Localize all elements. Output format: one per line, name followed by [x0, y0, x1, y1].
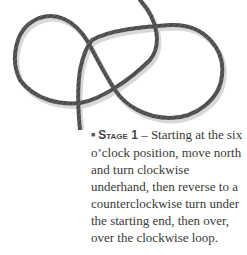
rope-knot-icon — [0, 0, 247, 130]
rope-illustration — [0, 0, 247, 130]
caption-text: Starting at the six o’clock position, mo… — [91, 127, 242, 245]
stage-label: Stage 1 — [98, 128, 138, 142]
caption: ■Stage 1 – Starting at the six o’clock p… — [91, 126, 247, 246]
bullet-icon: ■ — [91, 131, 95, 139]
caption-paragraph: ■Stage 1 – Starting at the six o’clock p… — [91, 126, 247, 246]
dash: – — [138, 127, 151, 142]
